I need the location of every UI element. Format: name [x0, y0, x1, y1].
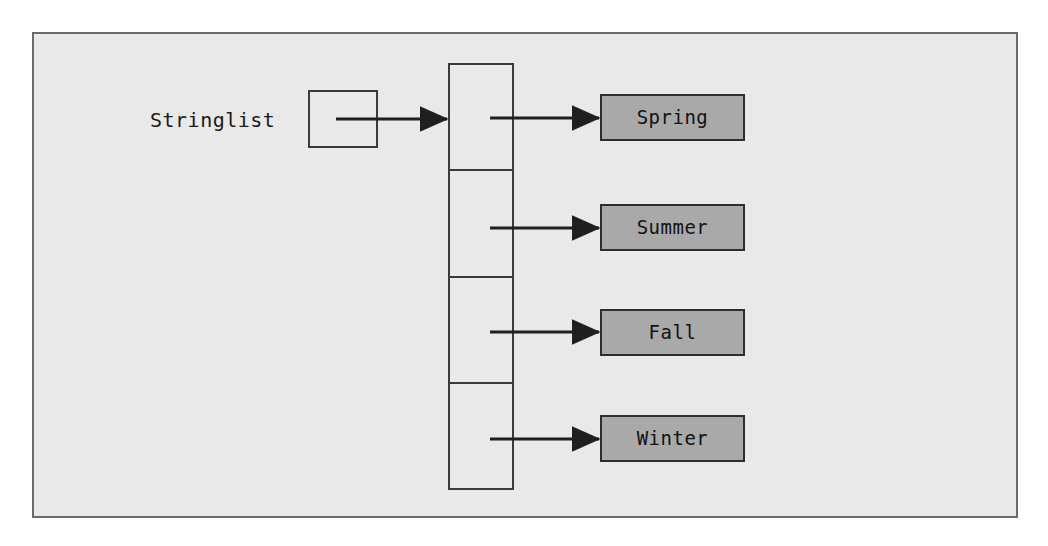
- diagram-canvas: Stringlist Spring Summer Fall Winter: [0, 0, 1048, 546]
- array-cell-1: [450, 171, 512, 277]
- string-array: [448, 63, 514, 490]
- reference-box: [308, 90, 378, 148]
- variable-label: Stringlist: [150, 104, 300, 136]
- array-cell-2: [450, 278, 512, 384]
- array-cell-3: [450, 384, 512, 488]
- value-box-winter: Winter: [600, 415, 745, 462]
- value-box-spring: Spring: [600, 94, 745, 141]
- value-box-summer: Summer: [600, 204, 745, 251]
- array-cell-0: [450, 65, 512, 171]
- value-box-fall: Fall: [600, 309, 745, 356]
